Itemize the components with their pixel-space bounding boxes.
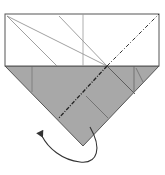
bottom-triangle <box>5 66 159 146</box>
origami-diagram <box>0 0 165 175</box>
